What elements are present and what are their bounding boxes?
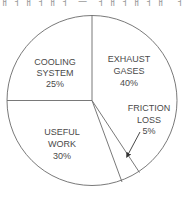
- label-friction-line1: FRICTION: [128, 103, 171, 113]
- label-exhaust-line1: EXHAUST: [108, 54, 151, 64]
- label-useful-pct: 30%: [53, 151, 71, 161]
- label-exhaust-line2: GASES: [113, 66, 144, 76]
- label-friction-line2: LOSS: [137, 115, 161, 125]
- label-exhaust-pct: 40%: [120, 78, 138, 88]
- pie-chart: COOLING SYSTEM 25% EXHAUST GASES 40% FRI…: [0, 0, 183, 201]
- label-friction-pct: 5%: [142, 126, 155, 136]
- label-cooling-line1: COOLING: [34, 57, 76, 67]
- label-cooling-line2: SYSTEM: [36, 68, 73, 78]
- label-useful-line1: USEFUL: [44, 127, 80, 137]
- label-useful-line2: WORK: [48, 139, 76, 149]
- label-cooling-pct: 25%: [46, 79, 64, 89]
